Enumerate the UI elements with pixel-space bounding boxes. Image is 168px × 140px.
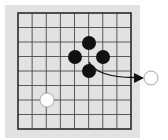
black-stone bbox=[96, 50, 110, 64]
go-capture-diagram bbox=[0, 0, 168, 140]
black-stone bbox=[82, 64, 96, 78]
removed-white-stone bbox=[144, 71, 158, 85]
black-stone bbox=[68, 50, 82, 64]
black-stone bbox=[82, 36, 96, 50]
board-panel-background bbox=[5, 5, 140, 138]
white-stone bbox=[40, 93, 54, 107]
